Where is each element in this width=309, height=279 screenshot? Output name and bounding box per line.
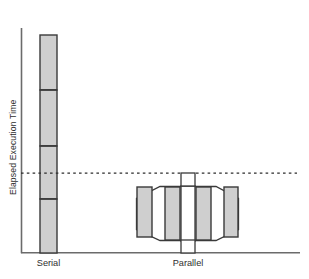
serial-bar-group	[40, 35, 57, 253]
category-labels-group: Serial Parallel	[37, 258, 204, 268]
category-label-serial: Serial	[37, 258, 61, 268]
parallel-fork-join-group	[137, 173, 239, 253]
fork-join-spine	[181, 186, 195, 241]
parallel-task-bar-3	[196, 187, 211, 240]
parallel-task-bar-1	[137, 187, 152, 237]
serial-bar-segment-3	[40, 146, 57, 199]
parallel-task-bar-4	[224, 187, 238, 237]
axes-group	[21, 28, 300, 253]
category-label-parallel: Parallel	[173, 258, 204, 268]
y-axis-title-group: Elapsed Execution Time	[8, 99, 18, 195]
figure-root: Elapsed Execution Time	[0, 0, 309, 279]
serial-bar-segment-4	[40, 199, 57, 253]
join-box	[181, 240, 195, 253]
serial-bar-segment-2	[40, 90, 57, 146]
fork-box	[181, 173, 195, 186]
parallel-task-bar-2	[165, 187, 180, 240]
execution-time-diagram: Elapsed Execution Time	[0, 0, 309, 279]
serial-bar-segment-1	[40, 35, 57, 90]
y-axis-title: Elapsed Execution Time	[8, 99, 18, 195]
